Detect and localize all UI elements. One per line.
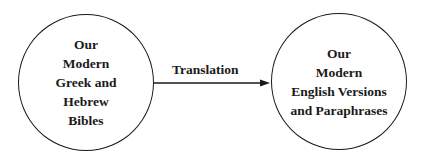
target-line-1: Our (290, 44, 387, 63)
target-line-4: and Paraphrases (290, 101, 387, 120)
translation-label: Translation (172, 62, 239, 78)
target-node: Our Modern English Versions and Paraphra… (271, 13, 407, 150)
source-line-1: Our (56, 35, 117, 54)
arrowhead-icon (260, 80, 270, 87)
source-line-4: Hebrew (56, 92, 117, 111)
target-line-2: Modern (290, 63, 387, 82)
source-node: Our Modern Greek and Hebrew Bibles (18, 14, 154, 151)
source-line-2: Modern (56, 54, 117, 73)
target-line-3: English Versions (290, 82, 387, 101)
target-node-label: Our Modern English Versions and Paraphra… (290, 44, 387, 120)
source-line-3: Greek and (56, 73, 117, 92)
source-node-label: Our Modern Greek and Hebrew Bibles (56, 35, 117, 130)
source-line-5: Bibles (56, 111, 117, 130)
